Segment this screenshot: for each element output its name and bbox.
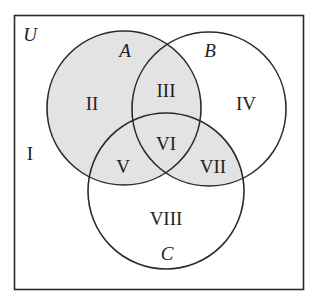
region-label-iii: III bbox=[157, 80, 176, 101]
region-label-iv: IV bbox=[236, 93, 256, 114]
region-label-vi: VI bbox=[156, 133, 176, 154]
set-label-b: B bbox=[204, 40, 216, 61]
region-label-viii: VIII bbox=[150, 208, 183, 229]
region-label-i: I bbox=[27, 143, 33, 164]
venn-diagram: U A B C I II III IV V VI VII VIII bbox=[0, 0, 323, 299]
set-label-c: C bbox=[161, 243, 174, 264]
set-label-a: A bbox=[117, 40, 131, 61]
region-label-ii: II bbox=[86, 93, 99, 114]
region-label-v: V bbox=[116, 156, 130, 177]
universe-label: U bbox=[23, 24, 38, 45]
region-label-vii: VII bbox=[200, 156, 226, 177]
